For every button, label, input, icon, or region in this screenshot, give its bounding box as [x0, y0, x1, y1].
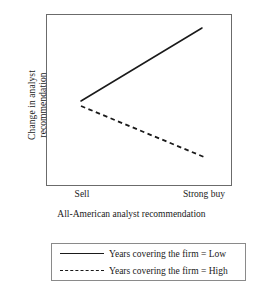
y-axis-title-line1: Change in analyst: [27, 70, 38, 140]
y-axis-title-line2: recommendation: [38, 72, 49, 137]
legend-label-high: Years covering the firm = High: [109, 266, 228, 276]
plot-lines: [46, 14, 232, 186]
series-line-low: [81, 28, 202, 101]
legend: Years covering the firm = Low Years cove…: [51, 243, 246, 281]
y-axis-title: Change in analyst recommendation: [25, 20, 51, 190]
legend-item-high: Years covering the firm = High: [52, 262, 245, 280]
legend-dashed-line-icon: [60, 266, 104, 276]
series-line-high: [81, 106, 204, 157]
legend-solid-line-icon: [60, 249, 104, 259]
x-tick-label-sell: Sell: [57, 189, 107, 199]
x-tick-label-strong-buy: Strong buy: [173, 189, 235, 199]
legend-label-low: Years covering the firm = Low: [109, 249, 226, 259]
x-axis-title: All-American analyst recommendation: [0, 209, 263, 219]
interaction-plot-figure: Change in analyst recommendation Sell St…: [0, 0, 263, 294]
legend-item-low: Years covering the firm = Low: [52, 245, 245, 263]
